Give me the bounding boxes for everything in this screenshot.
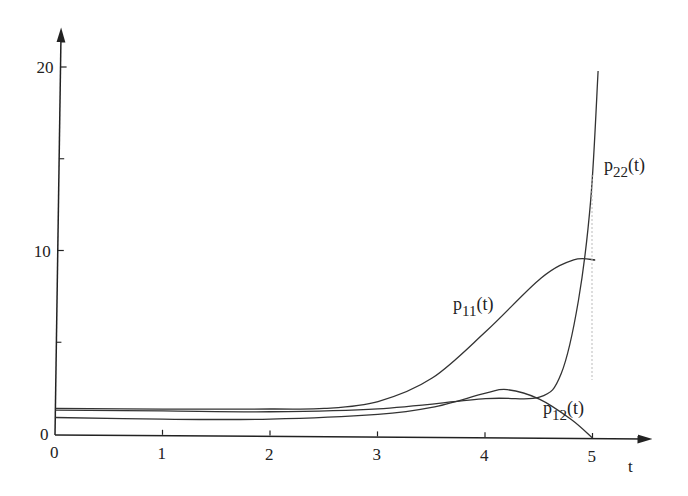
y-tick-label: 0 [40, 425, 49, 444]
chart-svg: 012345 01020 p11(t)p12(t)p22(t) t [0, 0, 688, 496]
series-label: p22(t) [604, 155, 645, 180]
series-label: p12(t) [543, 398, 584, 423]
curves [55, 71, 598, 438]
chart: 012345 01020 p11(t)p12(t)p22(t) t [0, 0, 688, 496]
x-tick-label: 5 [588, 447, 597, 466]
curve-p11t [55, 259, 595, 410]
x-tick-label: 2 [265, 445, 274, 464]
y-tick-label: 20 [37, 58, 54, 77]
series-label: p11(t) [453, 294, 493, 319]
y-tick-label: 10 [34, 242, 51, 261]
y-ticks: 01020 [34, 58, 67, 444]
x-tick-label: 3 [373, 445, 382, 464]
y-axis [55, 35, 61, 435]
x-tick-label: 1 [158, 444, 167, 463]
series-labels: p11(t)p12(t)p22(t) [453, 155, 645, 423]
x-axis-label: t [628, 457, 633, 476]
x-tick-label: 4 [480, 446, 489, 465]
curve-p12t [55, 389, 592, 438]
curve-p22t [55, 71, 598, 412]
x-tick-label: 0 [50, 443, 59, 462]
x-axis [55, 435, 645, 439]
